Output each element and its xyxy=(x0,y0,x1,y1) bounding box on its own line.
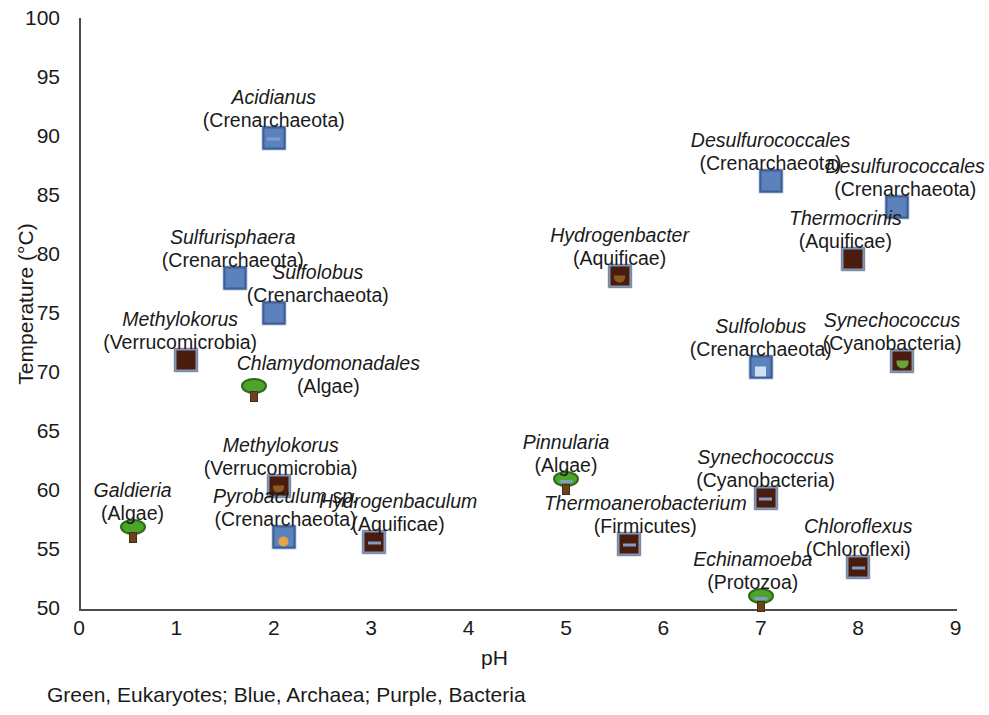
x-tick-5: 5 xyxy=(546,617,586,638)
marker-stalk-icon xyxy=(267,138,280,150)
point-label-taxon: (Algae) xyxy=(523,454,610,477)
x-tick-9: 9 xyxy=(936,617,976,638)
point-label-taxon: (Protozoa) xyxy=(693,571,812,594)
point-label-genus: Sulfurisphaera xyxy=(162,226,304,249)
point-label: Chloroflexus(Chloroflexi) xyxy=(804,515,912,561)
point-label-genus: Sulfolobus xyxy=(247,261,389,284)
y-tick-95: 95 xyxy=(14,66,60,87)
point-label-genus: Methylokorus xyxy=(204,434,358,457)
point-label-genus: Synechococcus xyxy=(696,446,835,469)
x-tick-0: 0 xyxy=(59,617,99,638)
point-label: Sulfolobus(Crenarchaeota) xyxy=(690,315,832,361)
point-label: Chlamydomonadales(Algae) xyxy=(237,352,420,398)
x-tick-7: 7 xyxy=(741,617,781,638)
point-label: Thermoanerobacterium(Firmicutes) xyxy=(544,492,747,538)
point-label-taxon: (Cyanobacteria) xyxy=(823,332,962,355)
y-tick-60: 60 xyxy=(14,479,60,500)
x-axis-line xyxy=(79,609,957,611)
marker-stalk-icon xyxy=(755,367,766,377)
point-label: Acidianus(Crenarchaeota) xyxy=(203,86,345,132)
point-label-genus: Acidianus xyxy=(203,86,345,109)
plot-area: 50556065707580859095100 0123456789 Tempe… xyxy=(0,0,989,640)
x-tick-8: 8 xyxy=(838,617,878,638)
point-label-genus: Desulfurococcales xyxy=(691,129,850,152)
x-tick-1: 1 xyxy=(156,617,196,638)
marker-stalk-icon xyxy=(623,544,636,556)
point-label-taxon: (Crenarchaeota) xyxy=(825,178,984,201)
point-label-genus: Hydrogenbacter xyxy=(550,224,689,247)
point-label-genus: Chloroflexus xyxy=(804,515,912,538)
y-axis-title: Temperature (°C) xyxy=(14,174,38,434)
point-label-genus: Echinamoeba xyxy=(693,548,812,571)
point-label-genus: Hydrogenbaculum xyxy=(319,490,477,513)
y-tick-90: 90 xyxy=(14,125,60,146)
point-label: Methylokorus(Verrucomicrobia) xyxy=(204,434,358,480)
marker-stalk-icon xyxy=(614,276,625,283)
figure-scatter-ph-temperature: 50556065707580859095100 0123456789 Tempe… xyxy=(0,0,989,715)
x-axis-title: pH xyxy=(0,646,989,670)
point-label-taxon: (Algae) xyxy=(237,375,420,398)
point-label-taxon: (Crenarchaeota) xyxy=(247,284,389,307)
point-label-taxon: (Firmicutes) xyxy=(544,515,747,538)
x-tick-4: 4 xyxy=(449,617,489,638)
point-label-genus: Synechococcus xyxy=(823,309,962,332)
point-label-genus: Methylokorus xyxy=(103,308,257,331)
point-label-taxon: (Chloroflexi) xyxy=(804,538,912,561)
marker-stalk-icon xyxy=(754,597,767,609)
point-label: Pinnularia(Algae) xyxy=(523,431,610,477)
x-tick-2: 2 xyxy=(254,617,294,638)
point-label: Synechococcus(Cyanobacteria) xyxy=(696,446,835,492)
point-label-genus: Galdieria xyxy=(94,479,172,502)
tree-stem-icon xyxy=(129,532,137,543)
point-label-genus: Chlamydomonadales xyxy=(237,352,420,375)
point-label: Methylokorus(Verrucomicrobia) xyxy=(103,308,257,354)
point-label-taxon: (Crenarchaeota) xyxy=(203,109,345,132)
point-label-taxon: (Verrucomicrobia) xyxy=(204,457,358,480)
point-label: Thermocrinis(Aquificae) xyxy=(789,207,902,253)
point-label: Galdieria(Algae) xyxy=(94,479,172,525)
point-label: Hydrogenbacter(Aquificae) xyxy=(550,224,689,270)
point-label: Echinamoeba(Protozoa) xyxy=(693,548,812,594)
point-label: Synechococcus(Cyanobacteria) xyxy=(823,309,962,355)
marker-stalk-icon xyxy=(759,498,772,510)
point-label-genus: Desulfurococcales xyxy=(825,155,984,178)
point-label-taxon: (Algae) xyxy=(94,502,172,525)
point-label-taxon: (Aquificae) xyxy=(319,513,477,536)
legend-note: Green, Eukaryotes; Blue, Archaea; Purple… xyxy=(47,683,526,707)
point-label-taxon: (Cyanobacteria) xyxy=(696,469,835,492)
y-tick-50: 50 xyxy=(14,597,60,618)
point-label-genus: Sulfolobus xyxy=(690,315,832,338)
marker-stalk-icon xyxy=(560,480,573,492)
point-label: Hydrogenbaculum(Aquificae) xyxy=(319,490,477,536)
x-tick-6: 6 xyxy=(643,617,683,638)
point-label-taxon: (Crenarchaeota) xyxy=(690,338,832,361)
marker-stalk-icon xyxy=(896,361,908,369)
point-label-taxon: (Aquificae) xyxy=(550,247,689,270)
point-label-genus: Thermocrinis xyxy=(789,207,902,230)
point-label-genus: Pinnularia xyxy=(523,431,610,454)
point-label-genus: Thermoanerobacterium xyxy=(544,492,747,515)
point-label: Desulfurococcales(Crenarchaeota) xyxy=(825,155,984,201)
marker-stalk-icon xyxy=(368,541,381,553)
point-label-taxon: (Aquificae) xyxy=(789,230,902,253)
point-label-taxon: (Verrucomicrobia) xyxy=(103,331,257,354)
y-axis-line xyxy=(79,18,81,610)
y-tick-55: 55 xyxy=(14,538,60,559)
point-label: Sulfolobus(Crenarchaeota) xyxy=(247,261,389,307)
marker-stalk-icon xyxy=(279,537,289,547)
y-tick-100: 100 xyxy=(14,7,60,28)
x-tick-3: 3 xyxy=(351,617,391,638)
marker-stalk-icon xyxy=(852,566,865,578)
